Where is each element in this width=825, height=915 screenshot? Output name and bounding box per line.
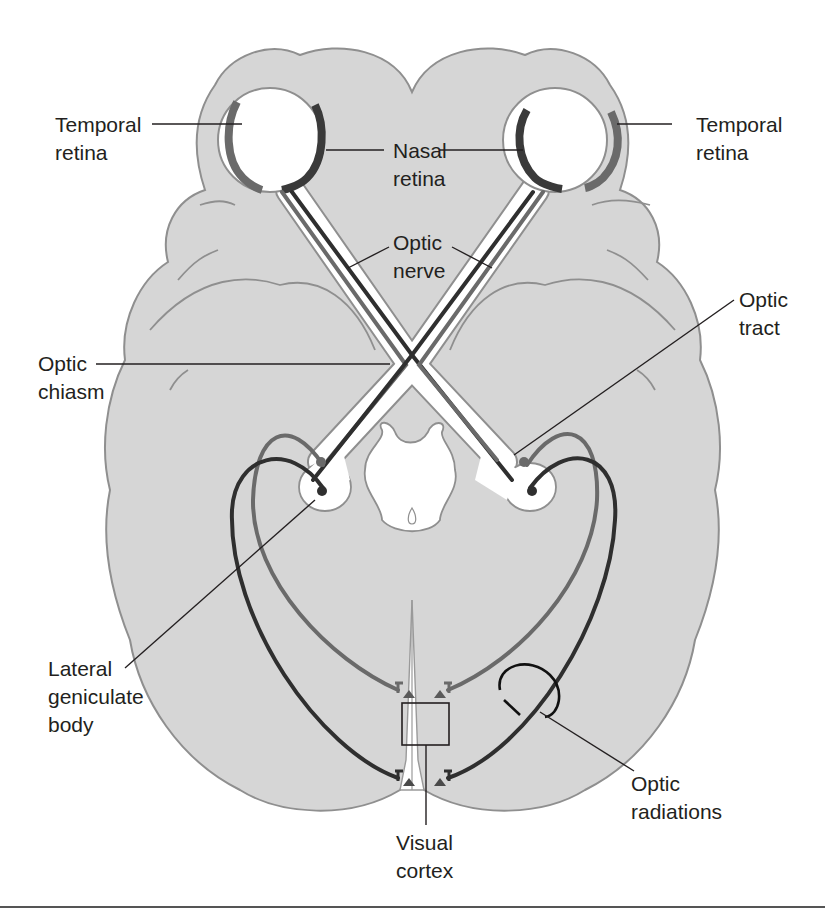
left-eye	[218, 88, 322, 192]
label-optic-chiasm: Optic chiasm	[38, 352, 105, 403]
svg-text:retina: retina	[393, 167, 446, 190]
svg-text:Optic: Optic	[631, 772, 680, 795]
label-lateral-geniculate-body: Lateral geniculate body	[48, 657, 144, 736]
svg-text:cortex: cortex	[396, 859, 454, 882]
label-temporal-retina-right: Temporal retina	[696, 113, 782, 164]
svg-text:tract: tract	[739, 316, 780, 339]
svg-text:nerve: nerve	[393, 259, 446, 282]
svg-text:Temporal: Temporal	[55, 113, 141, 136]
svg-text:retina: retina	[696, 141, 749, 164]
label-visual-cortex: Visual cortex	[396, 831, 454, 882]
svg-text:body: body	[48, 713, 94, 736]
svg-text:Optic: Optic	[739, 288, 788, 311]
svg-text:Nasal: Nasal	[393, 139, 447, 162]
svg-text:radiations: radiations	[631, 800, 722, 823]
svg-text:Lateral: Lateral	[48, 657, 112, 680]
svg-text:Optic: Optic	[38, 352, 87, 375]
label-optic-radiations: Optic radiations	[631, 772, 722, 823]
visual-pathway-diagram: Temporal retina Temporal retina Nasal re…	[0, 0, 825, 915]
svg-text:geniculate: geniculate	[48, 685, 144, 708]
svg-text:chiasm: chiasm	[38, 380, 105, 403]
svg-text:Optic: Optic	[393, 231, 442, 254]
svg-text:Temporal: Temporal	[696, 113, 782, 136]
svg-text:Visual: Visual	[396, 831, 453, 854]
svg-text:retina: retina	[55, 141, 108, 164]
label-optic-tract: Optic tract	[739, 288, 788, 339]
label-temporal-retina-left: Temporal retina	[55, 113, 141, 164]
